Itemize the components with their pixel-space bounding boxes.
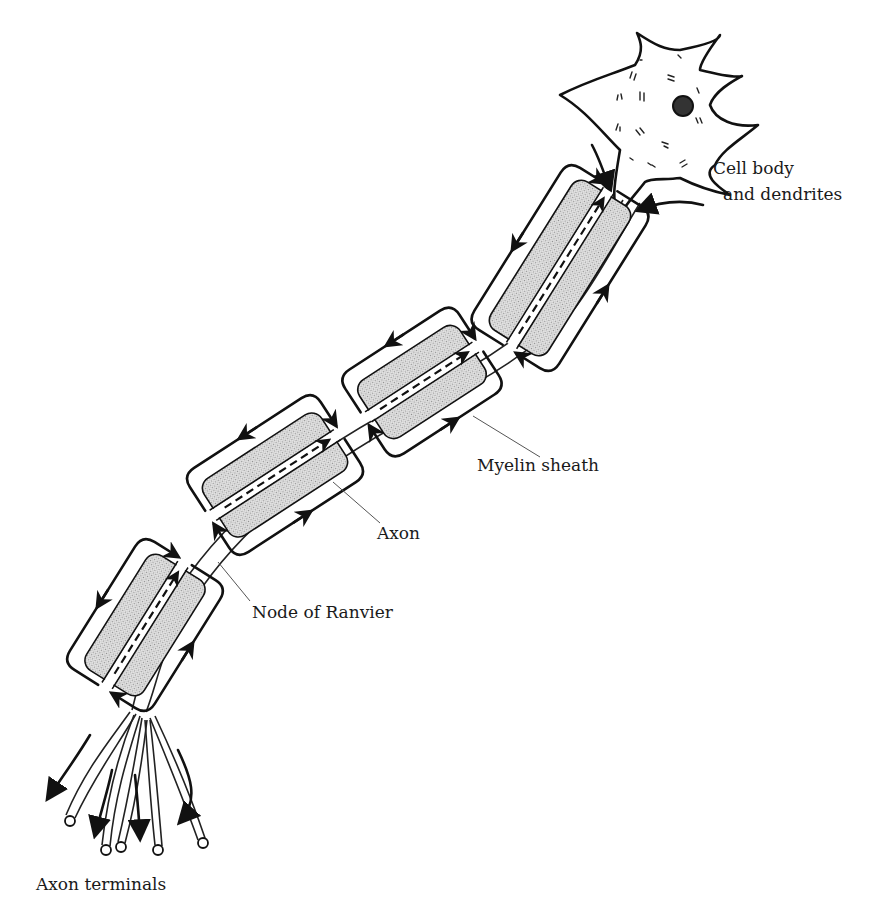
label-cell-body: Cell body bbox=[713, 158, 794, 178]
current-arrow bbox=[512, 233, 523, 250]
current-arrow bbox=[182, 643, 193, 660]
current-arrow bbox=[386, 335, 403, 346]
dendrite-input-arrow-right bbox=[638, 202, 703, 210]
current-arrow bbox=[441, 418, 458, 429]
leader-axon bbox=[333, 482, 380, 523]
myelin-segment bbox=[182, 391, 367, 560]
label-axon-terminals: Axon terminals bbox=[35, 874, 166, 894]
nucleus bbox=[673, 96, 693, 116]
neuron-diagram: Cell body and dendrites Myelin sheath Ax… bbox=[0, 0, 881, 905]
myelin-segments bbox=[63, 161, 653, 716]
current-arrow bbox=[294, 511, 311, 522]
myelin-segment bbox=[467, 161, 653, 376]
myelin-segment bbox=[63, 534, 228, 715]
label-myelin-sheath: Myelin sheath bbox=[477, 455, 599, 475]
current-arrow bbox=[239, 428, 256, 439]
myelin-segment bbox=[338, 303, 507, 461]
current-arrow bbox=[97, 590, 108, 607]
dendrite-input-arrow-left bbox=[592, 145, 610, 190]
label-axon: Axon bbox=[376, 523, 420, 543]
label-dendrites: and dendrites bbox=[723, 184, 842, 204]
leader-myelin bbox=[473, 416, 540, 457]
axon-terminals bbox=[48, 712, 208, 855]
current-arrow bbox=[597, 286, 608, 303]
terminal-bouton bbox=[65, 816, 208, 855]
label-node-of-ranvier: Node of Ranvier bbox=[252, 602, 394, 622]
